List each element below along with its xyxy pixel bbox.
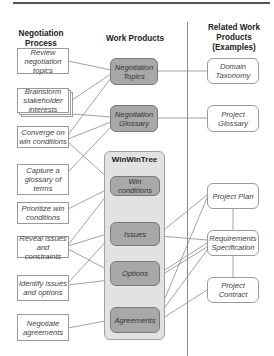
process-step-reveal-issues[interactable]: Reveal issues and constraints: [17, 236, 69, 258]
work-product-win-conditions[interactable]: Win conditions: [110, 176, 160, 196]
related-project-plan[interactable]: Project Plan: [207, 183, 259, 209]
work-product-options[interactable]: Options: [110, 261, 160, 286]
related-project-contract[interactable]: Project Contract: [207, 277, 259, 303]
work-product-issues[interactable]: Issues: [110, 222, 160, 246]
process-step-review-topics[interactable]: Review negotiation topics: [17, 48, 69, 74]
work-product-negotiation-topics[interactable]: Negotiation Topics: [110, 58, 158, 85]
header-related-work-products: Related Work Products (Examples): [198, 23, 270, 53]
process-step-negotiate-agreements[interactable]: Negotiate agreements: [17, 314, 69, 341]
work-product-negotiation-glossary[interactable]: Negotiation Glossary: [110, 105, 158, 132]
header-work-products: Work Products: [100, 34, 170, 44]
related-domain-taxonomy[interactable]: Domain Taxonomy: [207, 58, 259, 84]
process-step-converge[interactable]: Converge on win conditions: [17, 126, 69, 148]
header-negotiation-process: Negotiation Process: [10, 29, 72, 49]
process-step-prioritize[interactable]: Prioritize win conditions: [17, 202, 69, 224]
process-step-identify-options[interactable]: Identify issues and options: [17, 275, 69, 301]
process-step-brainstorm[interactable]: Brainstorm stakeholder interests: [17, 88, 69, 113]
work-product-agreements[interactable]: Agreements: [110, 307, 160, 333]
related-requirements-specification[interactable]: Requirements Specification: [207, 230, 259, 256]
related-project-glossary[interactable]: Project Glossary: [207, 105, 259, 132]
winwintree-title: WinWinTree: [104, 155, 165, 164]
process-step-capture-glossary[interactable]: Capture a glossary of terms: [17, 164, 69, 195]
